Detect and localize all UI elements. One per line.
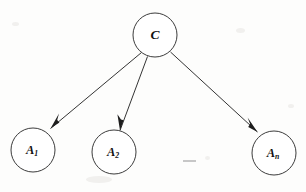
edge-c-to-an-line bbox=[171, 52, 258, 132]
node-group: C A1 A2 An bbox=[11, 13, 296, 175]
node-an-label-main: A bbox=[266, 146, 275, 160]
node-c-label-main: C bbox=[150, 27, 160, 42]
graph-diagram: C A1 A2 An bbox=[0, 0, 306, 192]
node-an[interactable]: An bbox=[252, 131, 296, 175]
edge-group bbox=[51, 52, 258, 132]
node-a2[interactable]: A2 bbox=[92, 130, 136, 174]
node-a1-label-main: A bbox=[25, 143, 34, 157]
edge-c-to-a2-arrowhead bbox=[117, 114, 123, 130]
node-a1[interactable]: A1 bbox=[11, 128, 55, 172]
edge-c-to-a1 bbox=[51, 53, 142, 129]
node-an-label-subscript: n bbox=[275, 152, 279, 161]
edge-c-to-an bbox=[171, 52, 258, 132]
edge-c-to-a1-arrowhead bbox=[51, 113, 60, 128]
diagram-canvas-container: C A1 A2 An bbox=[0, 0, 306, 192]
node-a2-label-main: A bbox=[106, 145, 115, 159]
node-c-label: C bbox=[150, 27, 160, 42]
edge-c-to-a2-line bbox=[120, 57, 148, 131]
node-a2-label-subscript: 2 bbox=[114, 151, 119, 160]
node-a1-label-subscript: 1 bbox=[34, 149, 38, 158]
node-c[interactable]: C bbox=[133, 13, 177, 57]
edge-c-to-a1-line bbox=[51, 53, 142, 129]
edge-c-to-a2 bbox=[117, 57, 147, 131]
